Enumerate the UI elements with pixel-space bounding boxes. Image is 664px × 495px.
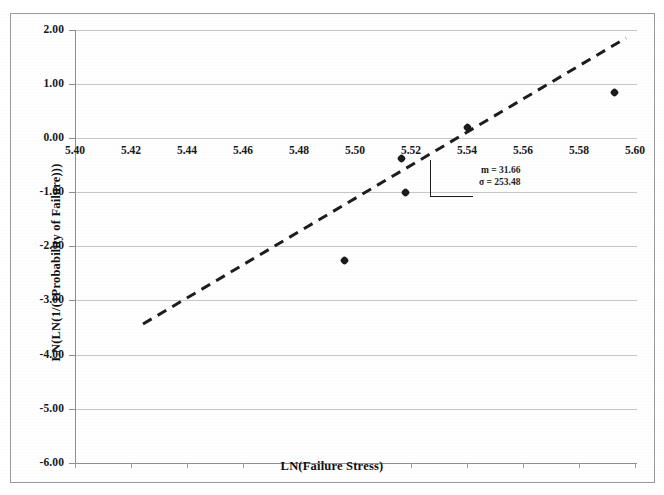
data-point bbox=[609, 87, 619, 97]
gridline-y-neg5 bbox=[75, 409, 637, 410]
gridline-y-2 bbox=[75, 30, 637, 31]
gridline-y-0 bbox=[75, 138, 637, 139]
y-tick-neg4 bbox=[69, 355, 75, 356]
annotation-sigma: σ = 253.48 bbox=[479, 177, 520, 188]
x-tick-label-558: 5.58 bbox=[549, 145, 609, 156]
x-tick-label-546: 5.46 bbox=[213, 145, 273, 156]
x-tick-label-552: 5.52 bbox=[381, 145, 441, 156]
y-tick-1 bbox=[69, 84, 75, 85]
x-tick-label-542: 5.42 bbox=[101, 145, 161, 156]
x-tick-label-548: 5.48 bbox=[269, 145, 329, 156]
gridline-y-1 bbox=[75, 84, 637, 85]
data-point bbox=[339, 255, 349, 265]
y-tick-neg5 bbox=[69, 409, 75, 410]
x-tick-label-554: 5.54 bbox=[437, 145, 497, 156]
x-tick-label-560: 5.60 bbox=[605, 145, 664, 156]
slope-indicator-bracket bbox=[430, 160, 473, 197]
y-axis-title-wrapper: LN(LN(1/(1Probability of Failure))) bbox=[26, 55, 46, 385]
gridline-y-neg3 bbox=[75, 300, 637, 301]
y-tick-label-2: 2.00 bbox=[18, 24, 64, 35]
gridline-y-neg4 bbox=[75, 355, 637, 356]
weibull-probability-plot-figure: 2.00 1.00 0.00 -1.00 -2.00 -3.00 -4.00 -… bbox=[0, 0, 664, 495]
x-axis-title: LN(Failure Stress) bbox=[0, 459, 664, 474]
y-tick-neg1 bbox=[69, 192, 75, 193]
y-tick-neg3 bbox=[69, 300, 75, 301]
x-tick-label-544: 5.44 bbox=[157, 145, 217, 156]
data-point bbox=[396, 153, 406, 163]
y-tick-neg2 bbox=[69, 246, 75, 247]
data-point bbox=[462, 122, 472, 132]
y-tick-0 bbox=[69, 138, 75, 139]
y-axis-line bbox=[75, 30, 76, 464]
x-tick-label-556: 5.56 bbox=[493, 145, 553, 156]
y-axis-title: LN(LN(1/(1Probability of Failure))) bbox=[49, 83, 64, 443]
data-point bbox=[400, 187, 410, 197]
y-tick-2 bbox=[69, 30, 75, 31]
annotation-slope-m: m = 31.66 bbox=[481, 165, 520, 176]
gridline-y-neg1 bbox=[75, 192, 637, 193]
x-tick-label-550: 5.50 bbox=[325, 145, 385, 156]
gridline-y-neg2 bbox=[75, 246, 637, 247]
